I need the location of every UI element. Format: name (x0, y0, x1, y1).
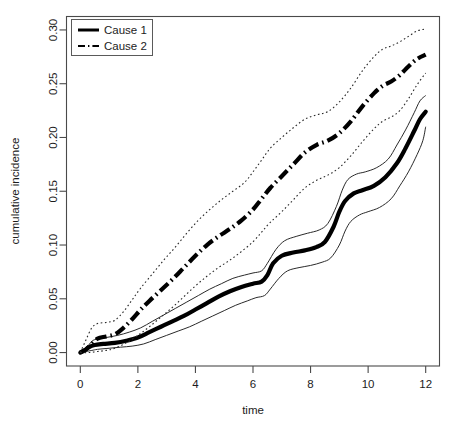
cumulative-incidence-chart: 024681012 0.000.050.100.150.200.250.30 t… (0, 0, 459, 432)
legend-label-cause-1: Cause 1 (104, 24, 147, 36)
y-tick-label: 0.10 (47, 234, 59, 256)
legend: Cause 1 Cause 2 (72, 20, 153, 56)
x-tick-label: 6 (250, 378, 256, 390)
y-tick-label: 0.05 (47, 288, 59, 310)
x-tick-label: 0 (77, 378, 83, 390)
x-tick-label: 4 (192, 378, 199, 390)
y-tick-label: 0.30 (47, 19, 59, 41)
x-tick-label: 12 (419, 378, 432, 390)
x-tick-label: 2 (135, 378, 141, 390)
x-axis-title: time (242, 404, 264, 416)
figure-container: 024681012 0.000.050.100.150.200.250.30 t… (0, 0, 459, 432)
chart-background (0, 0, 459, 432)
y-tick-label: 0.00 (47, 341, 59, 363)
x-tick-label: 8 (307, 378, 313, 390)
y-tick-label: 0.15 (47, 180, 59, 202)
legend-label-cause-2: Cause 2 (104, 40, 147, 52)
y-tick-label: 0.25 (47, 73, 59, 95)
y-tick-label: 0.20 (47, 126, 59, 148)
x-tick-label: 10 (362, 378, 375, 390)
y-axis-title: cumulative incidence (9, 138, 21, 245)
